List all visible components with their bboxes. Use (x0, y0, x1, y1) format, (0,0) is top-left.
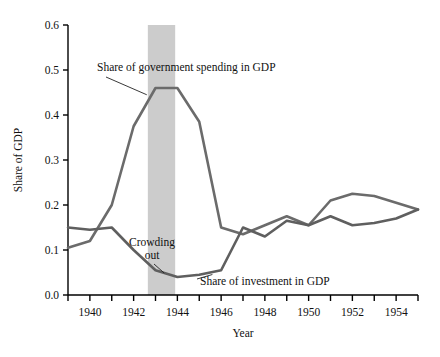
investment-label: Share of investment in GDP (200, 275, 330, 287)
gdp-shares-line-chart: 0.00.10.20.30.40.50.6 194019421944194619… (0, 0, 440, 357)
x-axis-title: Year (232, 327, 253, 339)
x-tick-label: 1948 (253, 306, 276, 318)
chart-container: 0.00.10.20.30.40.50.6 194019421944194619… (0, 0, 440, 357)
x-tick-label: 1944 (166, 306, 189, 318)
x-tick-label: 1954 (385, 306, 408, 318)
x-tick-label: 1940 (78, 306, 101, 318)
y-tick-label: 0.3 (45, 154, 60, 166)
crowding-out-label-line2: out (145, 249, 161, 261)
y-tick-label: 0.5 (45, 64, 60, 76)
y-axis-title: Share of GDP (12, 128, 24, 193)
y-tick-label: 0.4 (45, 109, 60, 121)
crowding-out-label-line1: Crowding (129, 236, 175, 249)
y-tick-label: 0.6 (45, 19, 60, 31)
government-spending-label: Share of government spending in GDP (97, 61, 276, 74)
chart-background (0, 0, 440, 357)
y-tick-label: 0.2 (45, 199, 60, 211)
x-tick-label: 1942 (122, 306, 145, 318)
x-tick-label: 1952 (341, 306, 364, 318)
x-tick-label: 1946 (210, 306, 233, 318)
x-tick-label: 1950 (297, 306, 320, 318)
y-tick-label: 0.1 (45, 244, 60, 256)
y-tick-label: 0.0 (45, 289, 60, 301)
